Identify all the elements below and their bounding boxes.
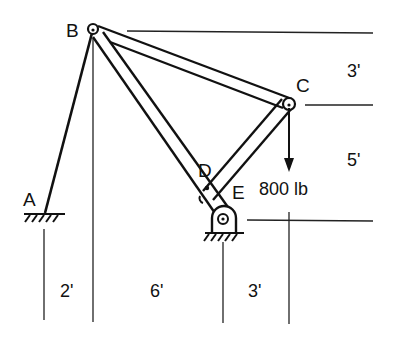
dim-horizontal-ec: 3'	[248, 281, 261, 301]
dim-horizontal-be: 6'	[150, 281, 163, 301]
label-point-a: A	[23, 189, 36, 210]
label-point-c: C	[296, 75, 310, 96]
dim-horizontal-ab: 2'	[60, 281, 73, 301]
member-be	[93, 32, 230, 216]
member-ab	[45, 33, 92, 213]
pin-b	[88, 24, 98, 34]
load-label: 800 lb	[259, 179, 308, 199]
pin-support-e	[212, 206, 236, 233]
extension-line-top	[127, 31, 373, 33]
ground-e	[204, 233, 244, 241]
frame-diagram: A B C D E 800 lb 3' 5' 2' 6' 3'	[0, 0, 401, 346]
load-arrow	[284, 108, 294, 172]
label-point-e: E	[232, 182, 245, 203]
label-point-b: B	[66, 20, 79, 41]
dim-vertical-ce: 5'	[347, 150, 360, 170]
extension-line-e	[247, 220, 373, 221]
ground-a	[24, 214, 65, 222]
dim-vertical-bc: 3'	[347, 61, 360, 81]
label-point-d: D	[198, 160, 212, 181]
